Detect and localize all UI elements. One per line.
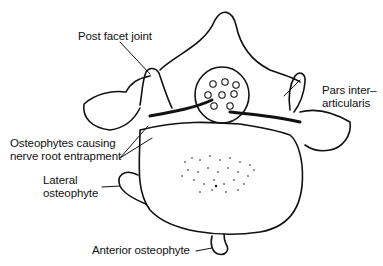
leader-lateral (102, 186, 120, 187)
left-facet (140, 69, 172, 108)
label-anterior-osteophyte: Anterior osteophyte (92, 244, 190, 257)
right-nerve-root (230, 112, 300, 122)
spinal-canal (195, 67, 249, 123)
vertebral-body (139, 122, 302, 234)
vertebra-illustration (0, 0, 383, 266)
label-lateral-line2: osteophyte (43, 187, 98, 200)
label-pars-line1: Pars inter– (322, 84, 377, 97)
right-facet (289, 73, 305, 112)
lateral-osteophyte (119, 172, 146, 204)
leader-osteophytes-1 (120, 126, 148, 158)
spinous-process (160, 12, 300, 82)
leader-osteophytes-2 (120, 138, 152, 158)
body-stipple (181, 155, 255, 193)
right-transverse-process (300, 110, 350, 150)
canal-dots (205, 79, 239, 109)
vertebra-diagram: Post facet joint Pars inter– articularis… (0, 0, 383, 266)
anterior-osteophyte (211, 234, 227, 254)
label-osteophytes-line1: Osteophytes causing (10, 137, 116, 150)
leader-anterior (196, 248, 212, 251)
label-lateral-line1: Lateral (43, 174, 77, 187)
label-post-facet-joint: Post facet joint (78, 30, 152, 43)
label-pars-line2: articularis (322, 97, 370, 110)
label-osteophytes-line2: nerve root entrapment (10, 150, 121, 163)
leader-post-facet (120, 42, 150, 74)
